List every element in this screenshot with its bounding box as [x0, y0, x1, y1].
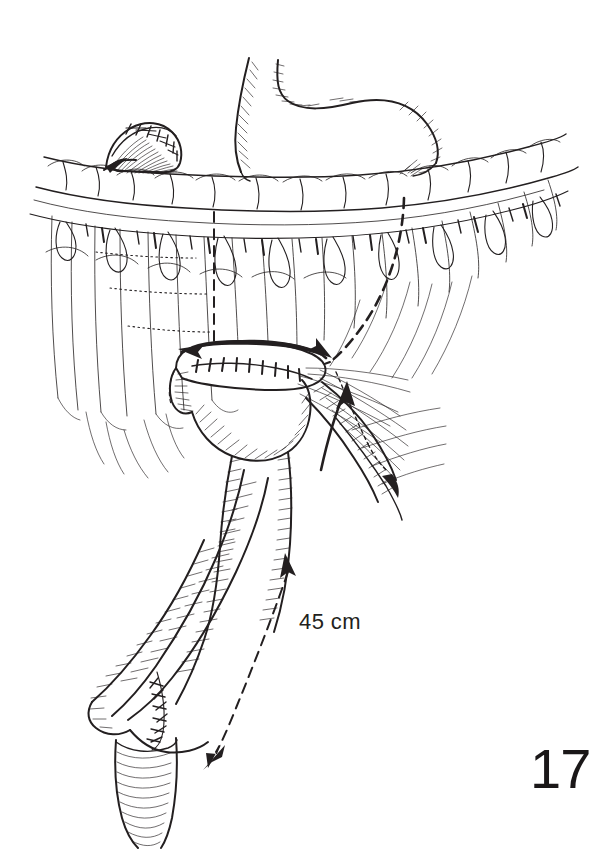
surgical-illustration: .ln{fill:none;stroke:#231f20;stroke-line…	[0, 0, 607, 852]
figure-number: 17	[530, 736, 590, 801]
figure-root: .ln{fill:none;stroke:#231f20;stroke-line…	[0, 0, 607, 852]
roux-limb-length-label: 45 cm	[299, 609, 361, 635]
